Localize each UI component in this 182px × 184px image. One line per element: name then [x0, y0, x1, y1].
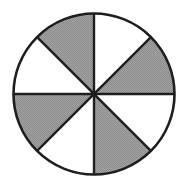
fraction-circle-diagram: [0, 0, 182, 184]
